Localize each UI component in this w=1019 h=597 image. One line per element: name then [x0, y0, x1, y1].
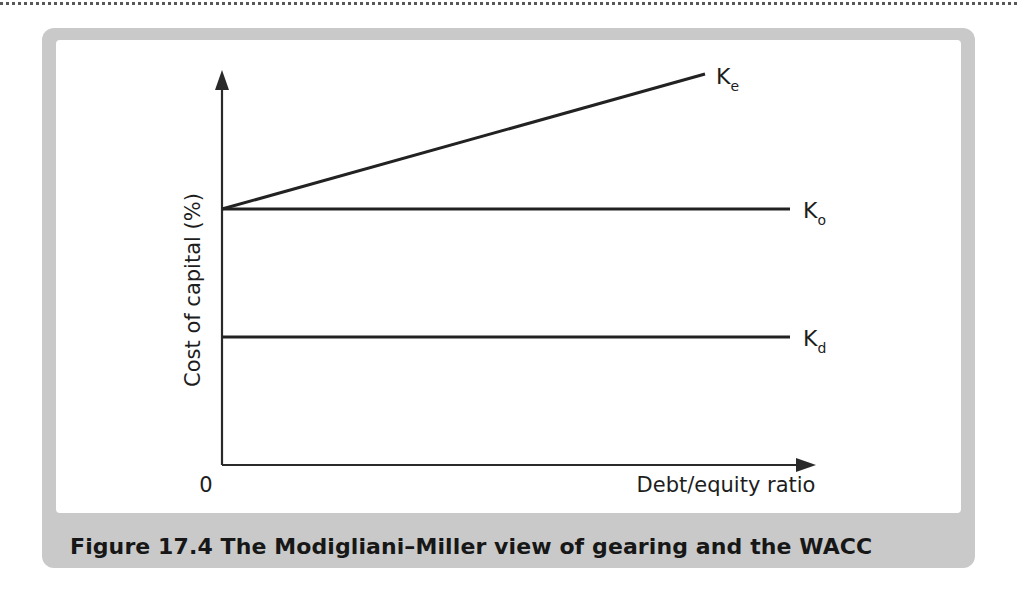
page-top-dotted-rule — [0, 2, 1019, 5]
chart-panel — [56, 40, 961, 513]
figure-frame: Figure 17.4 The Modigliani–Miller view o… — [42, 28, 975, 568]
figure-caption-text: Figure 17.4 The Modigliani–Miller view o… — [70, 534, 872, 559]
figure-caption-bar: Figure 17.4 The Modigliani–Miller view o… — [42, 525, 975, 568]
